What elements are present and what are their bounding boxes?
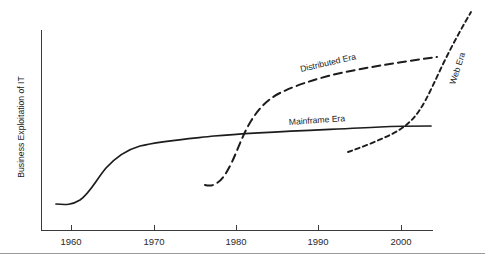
chart-figure: 1960 1970 1980 1990 2000 Business Exploi… [0, 0, 485, 261]
x-tick-label: 2000 [390, 236, 411, 247]
x-tick-label: 1990 [307, 236, 328, 247]
chart-canvas: 1960 1970 1980 1990 2000 Business Exploi… [0, 0, 485, 261]
series-label-web-era: Web Era [447, 51, 467, 86]
series-mainframe-era-line [56, 126, 431, 205]
x-tick-label: 1970 [143, 236, 164, 247]
series-label-mainframe-era: Mainframe Era [288, 113, 345, 127]
y-axis-title: Business Exploitation of IT [16, 76, 26, 178]
x-axis-tick-labels: 1960 1970 1980 1990 2000 [60, 236, 411, 247]
x-tick-label: 1980 [225, 236, 246, 247]
x-tick-label: 1960 [60, 236, 81, 247]
x-axis-ticks [72, 225, 402, 231]
